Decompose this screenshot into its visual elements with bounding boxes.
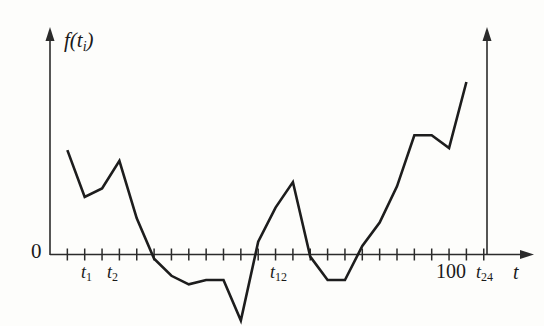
x-tick-label-t12: t12: [270, 263, 287, 283]
x-tick-label-t1: t1: [81, 263, 92, 283]
x-axis: [50, 250, 534, 259]
t24-vertical-marker: [483, 27, 492, 254]
x-tick-label-t1-subscript: 1: [86, 270, 92, 284]
chart-figure: 0 f(ti) t1 t2 t12 100 t24 t: [0, 0, 544, 326]
x-tick-label-t24: t24: [476, 263, 493, 283]
x-tick-label-t2-subscript: 2: [112, 270, 118, 284]
y-axis-label-base: f(t: [64, 28, 83, 52]
y-axis-label: f(ti): [64, 30, 94, 54]
x-axis-label: t: [513, 262, 519, 282]
x-tick-label-t24-subscript: 24: [481, 270, 493, 284]
x-tick-label-t12-subscript: 12: [275, 270, 287, 284]
y-axis: [46, 27, 55, 255]
series-line-f-ti: [67, 82, 466, 321]
x-tick-label-t2: t2: [107, 263, 118, 283]
x-tick-label-100: 100: [436, 261, 466, 281]
axis-origin-label: 0: [31, 241, 42, 262]
y-axis-label-close: ): [87, 28, 94, 52]
